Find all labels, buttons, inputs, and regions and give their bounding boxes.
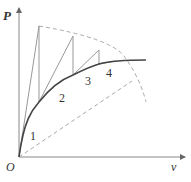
step-label-4: 4 [106,66,112,80]
x-axis-label: v [171,160,177,174]
step-label-1: 1 [30,129,36,143]
step-label-2: 2 [59,91,65,105]
dashed-ray [19,81,132,157]
main-curve [19,60,146,157]
step-label-3: 3 [85,74,91,88]
origin-label: O [6,160,15,174]
diagram-canvas: P v O 1 2 3 4 [0,0,191,182]
y-axis-label: P [3,8,12,23]
dashed-envelope-curve [39,26,146,102]
